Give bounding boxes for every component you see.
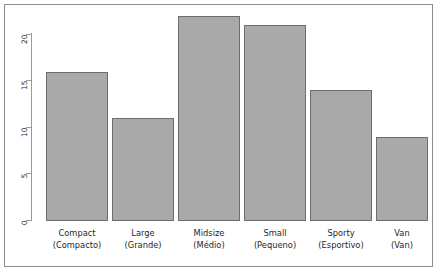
category-label-midsize-en: Midsize [194, 228, 225, 238]
category-label-compact-en: Compact [58, 228, 95, 238]
category-label-small-en: Small [263, 228, 286, 238]
bar-compact [46, 72, 108, 221]
category-label-compact-pt: (Compacto) [46, 240, 108, 252]
category-label-sporty: Sporty (Esportivo) [308, 228, 374, 251]
y-tick-label-15: 15 [20, 81, 29, 105]
category-label-large-pt: (Grande) [112, 240, 174, 252]
category-label-large: Large (Grande) [112, 228, 174, 251]
y-tick-label-10: 10 [20, 128, 29, 152]
y-tick-label-20: 20 [20, 35, 29, 59]
category-label-large-en: Large [131, 228, 154, 238]
y-tick-label-5: 5 [20, 174, 29, 198]
category-label-midsize-pt: (Médio) [178, 240, 240, 252]
chart-screenshot: 0 5 10 15 20 Compact (Compacto) Large (G… [0, 0, 437, 271]
bar-small [244, 25, 306, 221]
category-label-van-pt: (Van) [376, 240, 428, 252]
bar-midsize [178, 16, 240, 221]
category-label-sporty-pt: (Esportivo) [308, 240, 374, 252]
bar-sporty [310, 90, 372, 221]
category-label-small-pt: (Pequeno) [244, 240, 306, 252]
category-label-midsize: Midsize (Médio) [178, 228, 240, 251]
category-label-sporty-en: Sporty [327, 228, 354, 238]
category-label-compact: Compact (Compacto) [46, 228, 108, 251]
category-label-small: Small (Pequeno) [244, 228, 306, 251]
plot-area: 0 5 10 15 20 Compact (Compacto) Large (G… [0, 0, 437, 271]
bar-large [112, 118, 174, 221]
category-label-van: Van (Van) [376, 228, 428, 251]
y-tick-label-0: 0 [20, 221, 29, 245]
bar-van [376, 137, 428, 221]
category-label-van-en: Van [394, 228, 409, 238]
